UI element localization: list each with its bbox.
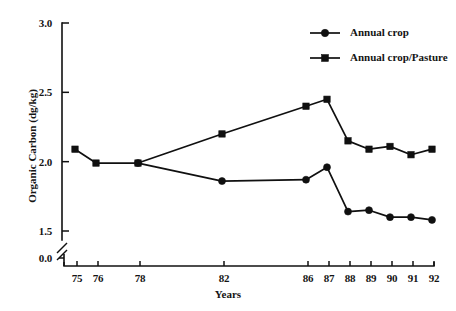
chart-plot-area [0, 0, 456, 311]
y-tick-label: 0.0 [8, 252, 52, 264]
x-tick-label: 82 [219, 272, 230, 284]
x-tick-label: 90 [387, 272, 398, 284]
chart-legend-marks [310, 29, 340, 61]
legend-entry-label: Annual crop [350, 26, 409, 38]
x-axis-title: Years [0, 288, 456, 300]
x-tick-label: 78 [135, 272, 146, 284]
x-tick-label: 75 [72, 272, 83, 284]
chart-series [72, 96, 436, 223]
x-tick-label: 91 [408, 272, 419, 284]
y-axis-title: Organic Carbon (dg/kg) [26, 66, 38, 226]
x-tick-label: 88 [345, 272, 356, 284]
organic-carbon-line-chart: 3.02.52.01.50.0 7576788286878889909192 A… [0, 0, 456, 311]
y-tick-label: 3.0 [8, 17, 52, 29]
x-tick-label: 92 [429, 272, 440, 284]
x-tick-label: 86 [303, 272, 314, 284]
x-tick-label: 89 [366, 272, 377, 284]
x-tick-label: 76 [93, 272, 104, 284]
y-tick-label: 1.5 [8, 225, 52, 237]
x-tick-label: 87 [324, 272, 335, 284]
legend-entry-label: Annual crop/Pasture [350, 51, 448, 63]
